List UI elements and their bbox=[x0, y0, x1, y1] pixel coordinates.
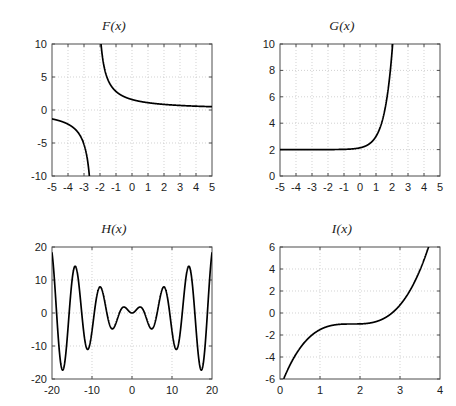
ytick-label: 2 bbox=[269, 144, 275, 156]
xtick-label: 3 bbox=[405, 181, 411, 193]
ytick-label: 10 bbox=[263, 38, 275, 50]
data-line-I bbox=[280, 207, 440, 388]
xtick-label: 20 bbox=[206, 384, 218, 396]
data-series-G bbox=[280, 0, 397, 150]
xtick-label: 4 bbox=[421, 181, 427, 193]
xtick-label: -5 bbox=[47, 181, 57, 193]
xtick-label: -2 bbox=[95, 181, 105, 193]
subplot-panel-G: G(x) bbox=[228, 0, 456, 203]
plot-yticklabels-I: 6 4 2 0 -2 -4 -6 bbox=[265, 241, 275, 385]
plot-yticklabels-G: 10 8 6 4 2 0 bbox=[263, 38, 275, 182]
plot-grid-F bbox=[52, 44, 212, 176]
subplot-panel-F: F(x) bbox=[0, 0, 228, 203]
data-series-I bbox=[280, 207, 440, 388]
ytick-label: 6 bbox=[269, 241, 275, 253]
xtick-label: 2 bbox=[357, 384, 363, 396]
plot-xticklabels-F: -5 -4 -3 -2 -1 0 1 2 3 4 5 bbox=[47, 181, 215, 193]
ytick-label: 20 bbox=[35, 241, 47, 253]
plot-svg-I: 6 4 2 0 -2 -4 -6 0 1 2 3 4 bbox=[228, 203, 456, 406]
plot-yticklabels-F: 10 5 0 -5 -10 bbox=[31, 38, 47, 182]
plot-svg-H: 20 10 0 -10 -20 -20 -10 0 10 20 bbox=[0, 203, 228, 406]
plot-svg-F: 10 5 0 -5 -10 -5 -4 -3 -2 -1 0 1 2 3 4 5 bbox=[0, 0, 228, 203]
figure-root: F(x) bbox=[0, 0, 456, 406]
xtick-label: 0 bbox=[129, 384, 135, 396]
xtick-label: -10 bbox=[84, 384, 100, 396]
ytick-label: 5 bbox=[41, 71, 47, 83]
xtick-label: -4 bbox=[291, 181, 301, 193]
ytick-label: 10 bbox=[35, 38, 47, 50]
plot-xticklabels-G: -5 -4 -3 -2 -1 0 1 2 3 4 5 bbox=[275, 181, 443, 193]
ytick-label: 10 bbox=[35, 274, 47, 286]
plot-xticklabels-H: -20 -10 0 10 20 bbox=[44, 384, 218, 396]
ytick-label: -2 bbox=[265, 329, 275, 341]
plot-svg-G: 10 8 6 4 2 0 -5 -4 -3 -2 -1 0 1 2 3 4 5 bbox=[228, 0, 456, 203]
xtick-label: 10 bbox=[166, 384, 178, 396]
xtick-label: -5 bbox=[275, 181, 285, 193]
ytick-label: 6 bbox=[269, 91, 275, 103]
xtick-label: 2 bbox=[389, 181, 395, 193]
ytick-label: 4 bbox=[269, 263, 275, 275]
xtick-label: 5 bbox=[209, 181, 215, 193]
subplot-panel-H: H(x) bbox=[0, 203, 228, 406]
xtick-label: 4 bbox=[437, 384, 443, 396]
ytick-label: 0 bbox=[269, 307, 275, 319]
plot-yticklabels-H: 20 10 0 -10 -20 bbox=[31, 241, 47, 385]
xtick-label: -20 bbox=[44, 384, 60, 396]
ytick-label: 8 bbox=[269, 64, 275, 76]
ytick-label: 2 bbox=[269, 285, 275, 297]
xtick-label: 1 bbox=[373, 181, 379, 193]
ytick-label: 0 bbox=[269, 170, 275, 182]
xtick-label: 0 bbox=[277, 384, 283, 396]
ytick-label: 0 bbox=[41, 307, 47, 319]
data-line-G bbox=[280, 0, 397, 150]
plot-grid-I bbox=[280, 247, 440, 379]
ytick-label: 4 bbox=[269, 117, 275, 129]
ytick-label: -4 bbox=[265, 351, 275, 363]
xtick-label: -3 bbox=[307, 181, 317, 193]
xtick-label: -3 bbox=[79, 181, 89, 193]
xtick-label: 3 bbox=[397, 384, 403, 396]
ytick-label: -5 bbox=[37, 137, 47, 149]
plot-xticklabels-I: 0 1 2 3 4 bbox=[277, 384, 443, 396]
ytick-label: -10 bbox=[31, 340, 47, 352]
xtick-label: -1 bbox=[111, 181, 121, 193]
xtick-label: -4 bbox=[63, 181, 73, 193]
xtick-label: 1 bbox=[145, 181, 151, 193]
subplot-panel-I: I(x) bbox=[228, 203, 456, 406]
xtick-label: 5 bbox=[437, 181, 443, 193]
ytick-label: 0 bbox=[41, 104, 47, 116]
xtick-label: -2 bbox=[323, 181, 333, 193]
plot-grid-G bbox=[280, 44, 440, 176]
xtick-label: 0 bbox=[357, 181, 363, 193]
xtick-label: -1 bbox=[339, 181, 349, 193]
ytick-label: -6 bbox=[265, 373, 275, 385]
xtick-label: 2 bbox=[161, 181, 167, 193]
xtick-label: 1 bbox=[317, 384, 323, 396]
xtick-label: 0 bbox=[129, 181, 135, 193]
xtick-label: 4 bbox=[193, 181, 199, 193]
xtick-label: 3 bbox=[177, 181, 183, 193]
ytick-label: -10 bbox=[31, 170, 47, 182]
